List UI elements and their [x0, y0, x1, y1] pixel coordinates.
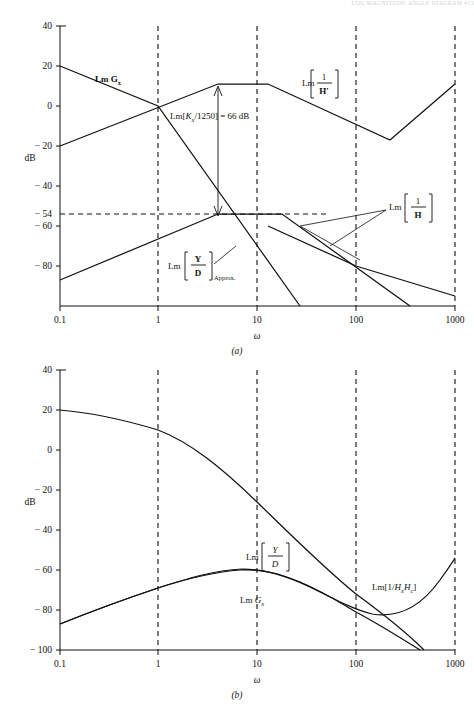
x-ticks	[60, 306, 455, 311]
svg-text:Lm: Lm	[389, 202, 402, 212]
panel-a-caption-wrap: (a)	[0, 340, 474, 358]
svg-text:Lm Gx: Lm Gx	[240, 595, 264, 607]
y-value-callout-minus54: − 54	[35, 209, 52, 219]
x-tick-label: 1000	[446, 315, 465, 325]
y-tick-label: 40	[43, 21, 53, 31]
y-tick-label: − 80	[35, 261, 52, 271]
y-tick-label: 0	[47, 445, 52, 455]
series-lm-y-over-d-exact	[60, 570, 420, 650]
figure-page: LOG MAGNITUDE-ANGLE DIAGRAM 413	[0, 0, 474, 704]
y-tick-label: 0	[47, 101, 52, 111]
x-tick-label: 10	[252, 315, 262, 325]
y-axis-label: dB	[24, 497, 35, 507]
curve-label-lm-gx-sub: x	[260, 600, 264, 607]
panel-a-caption: (a)	[231, 346, 242, 356]
x-tick-label: 1	[156, 315, 161, 325]
x-tick-labels: 0.1 1 10 100 1000	[54, 659, 465, 669]
y-axis-label: dB	[24, 153, 35, 163]
curve-label-lm-y-over-d-approx: Lm Y D Approx.	[168, 252, 236, 281]
panel-b-svg: 40 20 0 − 20 − 40 − 60 − 80 − 100 dB 0.1…	[0, 358, 474, 688]
y-tick-label: − 40	[35, 525, 52, 535]
curve-label-lm-inv-h-prime: Lm 1 H′	[302, 70, 338, 98]
series-lm-y-over-d-approx	[60, 214, 410, 306]
annotation-66db-prefix: Lm[	[170, 111, 186, 121]
y-tick-labels: 40 20 0 − 20 − 40 − 60 − 80 − 100	[30, 365, 52, 655]
annotation-66db-rest: /1250] = 66 dB	[194, 111, 249, 121]
curve-label-lm-gx-text: Lm	[240, 595, 255, 605]
curve-label-lm-y-over-d: Lm Y D	[246, 543, 289, 571]
curve-label-lm-gx: Lm Gx	[95, 74, 122, 86]
curve-label-lm-inv-h: Lm 1 H	[389, 194, 432, 222]
y-ticks	[56, 370, 60, 650]
fraction-numerator-y: Y	[272, 545, 278, 555]
x-tick-label: 10	[252, 659, 262, 669]
x-tick-label: 0.1	[54, 315, 66, 325]
lm-text: Lm	[246, 552, 259, 562]
annotation-arrow-66db	[214, 86, 222, 216]
y-tick-label: 20	[43, 61, 53, 71]
x-tick-label: 1000	[446, 659, 465, 669]
fraction-denominator-h-prime: H′	[319, 86, 329, 96]
panel-b-caption: (b)	[231, 690, 242, 700]
leader-line-y-over-d	[214, 246, 236, 264]
annotation-label-66db: Lm[Kx/1250] = 66 dB	[170, 111, 249, 123]
label-suffix: ]	[413, 582, 416, 592]
y-tick-label: − 20	[35, 141, 52, 151]
panel-a-svg: 40 20 0 − 20 − 40 − 60 − 80 − 54 dB 0.1	[0, 14, 474, 344]
x-tick-label: 100	[349, 315, 364, 325]
y-tick-labels: 40 20 0 − 20 − 40 − 60 − 80 − 54	[35, 21, 52, 271]
fraction-denominator-h: H	[414, 210, 421, 220]
svg-text:Lm: Lm	[302, 78, 315, 88]
curve-label-lm-gx-sub: x	[118, 79, 122, 86]
x-tick-label: 100	[349, 659, 364, 669]
y-tick-label: − 100	[30, 645, 52, 655]
x-tick-labels: 0.1 1 10 100 1000	[54, 315, 465, 325]
y-tick-label: − 60	[35, 565, 52, 575]
svg-text:Lm Gx: Lm Gx	[95, 74, 122, 86]
x-ticks	[60, 650, 455, 655]
lm-text: Lm	[389, 202, 402, 212]
x-tick-label: 0.1	[54, 659, 66, 669]
panel-b-caption-wrap: (b)	[0, 684, 474, 702]
series-lm-inv-h	[268, 226, 455, 296]
y-tick-label: − 40	[35, 181, 52, 191]
y-ticks	[56, 26, 60, 266]
y-tick-label: − 60	[35, 221, 52, 231]
x-tick-label: 1	[156, 659, 161, 669]
lm-text: Lm	[168, 261, 181, 271]
svg-text:Lm: Lm	[246, 552, 259, 562]
panel-a: 40 20 0 − 20 − 40 − 60 − 80 − 54 dB 0.1	[0, 14, 474, 344]
svg-text:Lm[Kx/1250] = 66 dB: Lm[Kx/1250] = 66 dB	[170, 111, 249, 123]
gridlines-vertical	[158, 26, 455, 306]
y-tick-label: 40	[43, 365, 53, 375]
svg-text:Lm[1/HxHc]: Lm[1/HxHc]	[372, 582, 416, 594]
fraction-numerator-y: Y	[195, 254, 202, 264]
y-tick-label: − 20	[35, 485, 52, 495]
curve-label-lm-gx-exact: Lm Gx	[240, 595, 264, 607]
running-head: LOG MAGNITUDE-ANGLE DIAGRAM 413	[300, 0, 474, 11]
label-prefix: Lm[1/	[372, 582, 395, 592]
approx-subscript: Approx.	[214, 274, 236, 281]
y-tick-label: − 80	[35, 605, 52, 615]
fraction-denominator-d: D	[195, 268, 202, 278]
series-lm-gx-exact	[60, 410, 424, 650]
fraction-numerator-one: 1	[322, 72, 327, 82]
curve-label-lm-inv-hx-hc: Lm[1/HxHc]	[372, 582, 416, 594]
y-tick-label: 20	[43, 405, 53, 415]
fraction-denominator-d: D	[271, 559, 279, 569]
lm-text: Lm	[302, 78, 315, 88]
leader-lines-lm-inv-h	[300, 210, 386, 260]
panel-b: 40 20 0 − 20 − 40 − 60 − 80 − 100 dB 0.1…	[0, 358, 474, 688]
svg-text:Lm: Lm	[168, 261, 181, 271]
curve-label-lm-gx-text: Lm G	[95, 74, 118, 84]
fraction-numerator-one: 1	[416, 196, 421, 206]
